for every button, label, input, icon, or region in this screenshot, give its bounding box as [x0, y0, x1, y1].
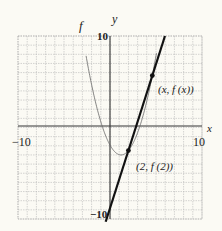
y-max-tick: 10: [97, 30, 109, 42]
x-min-tick: −10: [12, 135, 31, 149]
point-x-fx: [150, 73, 155, 78]
x-axis-label: x: [206, 122, 212, 134]
annotation-2-f2: (2, f (2)): [136, 160, 173, 173]
x-max-tick: 10: [193, 135, 205, 149]
annotation-x-fx: (x, f (x)): [158, 83, 194, 96]
y-min-tick: −10: [90, 208, 108, 220]
chart: y x 10 −10 −10 10 f (x, f (x)) (2, f (2)…: [0, 0, 222, 231]
f-label: f: [79, 18, 85, 33]
function-f-curve: [86, 53, 156, 155]
y-axis-label: y: [111, 12, 118, 26]
point-2-f2: [126, 148, 131, 153]
